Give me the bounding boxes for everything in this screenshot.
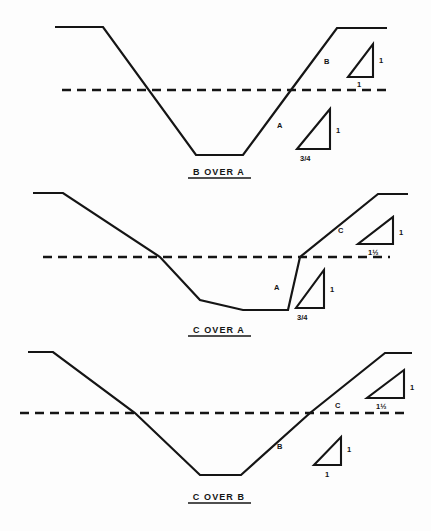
upper-triangle-rise-label-panel-1: 1 <box>379 56 383 65</box>
segment-label-b-panel-1: B <box>324 57 330 66</box>
upper-triangle-run-label-panel-2: 1½ <box>368 248 378 257</box>
upper-triangle-panel-1: 1 1 <box>348 44 383 89</box>
lower-triangle-rise-label-panel-1: 1 <box>336 126 340 135</box>
segment-label-b-panel-3: B <box>277 442 283 451</box>
caption-panel-1: B OVER A <box>193 167 245 177</box>
lower-triangle-panel-2: 1 3/4 <box>296 270 334 322</box>
profile-curve-panel-2 <box>33 193 408 310</box>
segment-label-c-panel-3: C <box>335 401 341 410</box>
lower-triangle-run-label-panel-2: 3/4 <box>297 313 308 322</box>
slope-comparison-figure: A B 1 1 1 3/4 B OVER A A C <box>0 0 431 531</box>
upper-triangle-run-label-panel-3: 1½ <box>376 402 386 411</box>
figure-root: A B 1 1 1 3/4 B OVER A A C <box>0 0 431 531</box>
upper-triangle-panel-2: 1 1½ <box>358 217 403 257</box>
segment-label-c-panel-2: C <box>338 226 344 235</box>
caption-panel-3: C OVER B <box>193 492 245 502</box>
segment-label-a-panel-2: A <box>274 283 280 292</box>
segment-label-a-panel-1: A <box>277 121 283 130</box>
lower-triangle-rise-label-panel-3: 1 <box>347 445 351 454</box>
panel-c-over-b: B C 1 1½ 1 1 C OVER B <box>20 352 414 503</box>
upper-triangle-rise-label-panel-3: 1 <box>410 383 414 392</box>
lower-triangle-panel-3: 1 1 <box>314 437 351 479</box>
lower-triangle-rise-label-panel-2: 1 <box>330 285 334 294</box>
panel-c-over-a: A C 1 1½ 1 3/4 C OVER A <box>33 193 408 336</box>
upper-triangle-run-label-panel-1: 1 <box>357 80 361 89</box>
lower-triangle-run-label-panel-3: 1 <box>325 470 329 479</box>
panel-b-over-a: A B 1 1 1 3/4 B OVER A <box>55 27 388 178</box>
lower-triangle-panel-1: 1 3/4 <box>297 109 340 163</box>
upper-triangle-panel-3: 1 1½ <box>367 370 414 411</box>
caption-panel-2: C OVER A <box>193 325 245 335</box>
lower-triangle-run-label-panel-1: 3/4 <box>300 154 311 163</box>
upper-triangle-rise-label-panel-2: 1 <box>399 228 403 237</box>
